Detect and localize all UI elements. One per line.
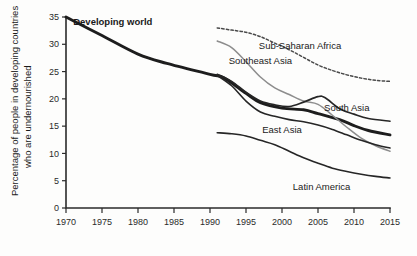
y-tick-label: 0 (54, 203, 59, 213)
y-tick-group: 05101520253035 (49, 12, 66, 213)
x-tick-label: 1990 (200, 217, 220, 227)
series-label-sub-saharan-africa: Sub-Saharan Africa (259, 40, 342, 51)
x-tick-label: 2000 (272, 217, 292, 227)
y-tick-label: 5 (54, 176, 59, 186)
x-tick-group: 1970197519801985199019952000200520102015 (56, 208, 400, 227)
y-tick-label: 25 (49, 67, 59, 77)
series-label-south-asia: South Asia (324, 102, 370, 113)
y-tick-label: 30 (49, 39, 59, 49)
series-label-developing-world: Developing world (73, 16, 152, 27)
y-tick-label: 20 (49, 94, 59, 104)
series-label-latin-america: Latin America (293, 181, 351, 192)
x-tick-label: 1975 (92, 217, 112, 227)
x-tick-label: 1970 (56, 217, 76, 227)
undernourishment-line-chart: Percentage of people in developing count… (0, 0, 417, 256)
chart-container: Percentage of people in developing count… (0, 0, 417, 256)
series-line-developing-world (66, 17, 390, 135)
x-tick-label: 2005 (308, 217, 328, 227)
y-axis-title-line2: who are undernourished (22, 66, 33, 169)
y-tick-label: 15 (49, 121, 59, 131)
x-tick-label: 2015 (380, 217, 400, 227)
series-lines-group (66, 17, 390, 178)
series-label-east-asia: East Asia (262, 124, 302, 135)
x-tick-label: 2010 (344, 217, 364, 227)
x-tick-label: 1985 (164, 217, 184, 227)
x-tick-label: 1980 (128, 217, 148, 227)
series-label-southeast-asia: Southeast Asia (229, 55, 293, 66)
y-axis-title-line1: Percentage of people in developing count… (9, 6, 20, 196)
y-tick-label: 10 (49, 149, 59, 159)
y-tick-label: 35 (49, 12, 59, 22)
x-tick-label: 1995 (236, 217, 256, 227)
y-axis-title-group: Percentage of people in developing count… (9, 6, 33, 196)
